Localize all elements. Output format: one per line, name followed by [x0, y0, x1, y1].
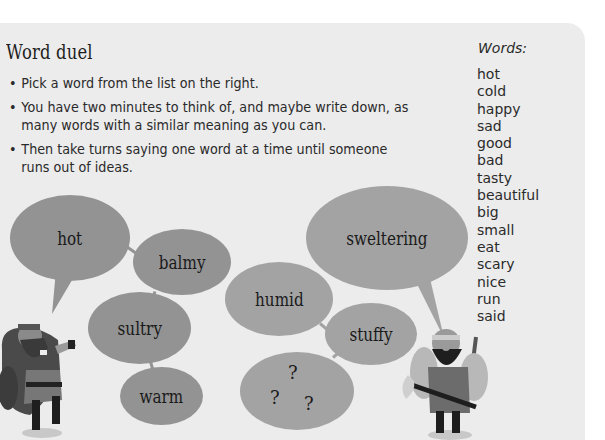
- word-item: sad: [477, 118, 539, 135]
- viking-right-icon: [398, 325, 498, 440]
- bubble-word: stuffy: [349, 323, 392, 345]
- rule-item: Then take turns saying one word at a tim…: [6, 141, 409, 177]
- word-item: cold: [477, 83, 539, 100]
- word-item: small: [477, 222, 539, 239]
- word-item: hot: [477, 66, 539, 83]
- bubble-word: hot: [57, 227, 82, 249]
- word-item: run: [477, 291, 539, 308]
- word-list-heading: Words:: [478, 40, 527, 56]
- viking-left-icon: [0, 300, 80, 440]
- word-item: eat: [477, 239, 539, 256]
- word-item: bad: [477, 152, 539, 169]
- word-item: beautiful: [477, 187, 539, 204]
- word-item: tasty: [477, 170, 539, 187]
- bubble-word: sweltering: [346, 227, 427, 249]
- word-item: nice: [477, 274, 539, 291]
- bubble-word: balmy: [159, 251, 206, 273]
- word-item: scary: [477, 256, 539, 273]
- question-mark: ?: [270, 387, 280, 408]
- rule-item: Pick a word from the list on the right.: [6, 75, 409, 93]
- bubble-word: sultry: [117, 317, 161, 339]
- rules-list: Pick a word from the list on the right. …: [6, 75, 426, 183]
- word-item: happy: [477, 101, 539, 118]
- word-bubble-sultry: sultry: [88, 292, 191, 364]
- word-bubble-balmy: balmy: [133, 229, 231, 295]
- word-item: good: [477, 135, 539, 152]
- rule-item: You have two minutes to think of, and ma…: [6, 99, 409, 135]
- question-mark: ?: [304, 393, 314, 414]
- word-bubble-warm: warm: [120, 367, 203, 425]
- word-item: big: [477, 204, 539, 221]
- word-bubble-sweltering: sweltering: [306, 186, 468, 290]
- word-item: said: [477, 308, 539, 325]
- bubble-word: warm: [140, 385, 184, 407]
- word-bubble-hot: hot: [10, 195, 130, 281]
- word-bubble-humid: humid: [225, 262, 333, 336]
- question-mark: ?: [288, 362, 298, 383]
- activity-title: Word duel: [6, 40, 93, 64]
- word-list: hot cold happy sad good bad tasty beauti…: [477, 66, 539, 325]
- bubble-word: humid: [255, 288, 304, 310]
